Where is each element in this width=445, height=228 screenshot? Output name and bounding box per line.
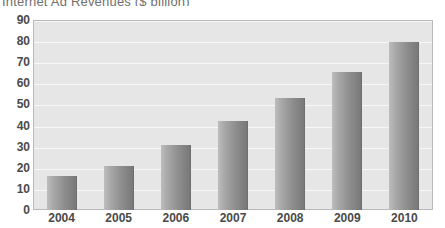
x-tick-label-2009: 2009	[319, 211, 375, 225]
x-tick-label-2010: 2010	[376, 211, 432, 225]
y-tick-label-50: 50	[17, 97, 30, 111]
x-tick-label-2005: 2005	[91, 211, 147, 225]
y-tick-label-10: 10	[17, 182, 30, 196]
y-axis: 0102030405060708090	[0, 20, 30, 210]
x-tick-label-2004: 2004	[34, 211, 90, 225]
y-tick-label-60: 60	[17, 76, 30, 90]
bar-2009	[332, 72, 362, 210]
chart-title: Internet Ad Revenues ($ billion)	[2, 0, 190, 6]
bar-2007	[218, 121, 248, 210]
x-axis: 2004200520062007200820092010	[33, 211, 433, 228]
y-tick-label-90: 90	[17, 13, 30, 27]
y-tick-label-0: 0	[23, 203, 30, 217]
y-tick-label-70: 70	[17, 55, 30, 69]
x-tick-label-2006: 2006	[148, 211, 204, 225]
y-tick-label-80: 80	[17, 34, 30, 48]
bar-2005	[104, 166, 134, 210]
x-tick-label-2007: 2007	[205, 211, 261, 225]
bar-2006	[161, 145, 191, 210]
bar-2010	[389, 42, 419, 210]
y-tick-label-40: 40	[17, 119, 30, 133]
y-tick-label-30: 30	[17, 140, 30, 154]
y-tick-label-20: 20	[17, 161, 30, 175]
x-tick-label-2008: 2008	[262, 211, 318, 225]
bar-series	[33, 20, 433, 210]
bar-2008	[275, 98, 305, 210]
bar-2004	[47, 176, 77, 210]
bar-chart-figure: Internet Ad Revenues ($ billion) 0102030…	[0, 0, 445, 228]
